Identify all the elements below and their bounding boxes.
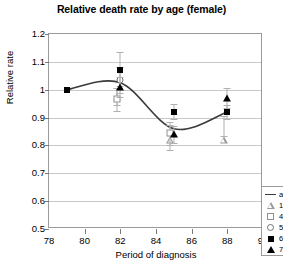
legend-marker-triangle-filled: [262, 246, 279, 253]
data-point-marker: [64, 87, 70, 93]
legend-point-swatch: [267, 213, 274, 220]
legend-item: 65-74: [262, 233, 283, 244]
series-all-line: [49, 34, 263, 229]
legend-item: 75+: [262, 244, 283, 255]
data-point-marker: [224, 109, 230, 115]
chart-title: Relative death rate by age (female): [0, 3, 283, 15]
x-axis-tick-label: 82: [108, 235, 132, 246]
chart-legend: all15-4445-5455-6465-7475+: [261, 186, 283, 256]
legend-marker-square-filled: [262, 236, 279, 242]
x-axis-tick-label: 86: [180, 235, 204, 246]
error-bar-cap: [113, 111, 120, 112]
legend-item: 15-44: [262, 200, 283, 211]
y-axis-tick-label: 1.1: [22, 57, 45, 66]
legend-point-swatch: [267, 246, 275, 253]
error-bar-cap: [117, 52, 124, 53]
error-bar-cap: [224, 88, 231, 89]
y-axis-tick-label: 0.6: [22, 196, 45, 205]
x-axis-tick-mark: [85, 229, 86, 234]
legend-item: 55-64: [262, 222, 283, 233]
error-bar-cap: [170, 143, 177, 144]
y-axis-label: Relative rate: [4, 33, 15, 123]
error-bar-cap: [170, 126, 177, 127]
data-point-marker: [171, 109, 177, 115]
error-bar-cap: [117, 97, 124, 98]
x-axis-tick-mark: [156, 229, 157, 234]
legend-marker-square-open: [262, 213, 279, 220]
error-bar-cap: [170, 119, 177, 120]
legend-item-label: 65-74: [279, 235, 283, 243]
data-point-marker: [116, 83, 124, 90]
legend-point-swatch: [267, 224, 274, 231]
error-bar-cap: [224, 108, 231, 109]
legend-item-label: 75+: [279, 246, 283, 254]
error-bar-cap: [167, 150, 174, 151]
y-axis-tick-label: 1: [22, 85, 45, 94]
x-axis-tick-label: 84: [144, 235, 168, 246]
x-axis-label: Period of diagnosis: [49, 249, 263, 260]
y-axis-tick-label: 0.8: [22, 140, 45, 149]
legend-point-swatch: [267, 202, 275, 209]
legend-line-swatch: [265, 194, 276, 196]
legend-item-label: 15-44: [279, 202, 283, 210]
x-axis-tick-mark: [227, 229, 228, 234]
x-axis-tick-label: 78: [37, 235, 61, 246]
error-bar-cap: [224, 119, 231, 120]
data-point-marker: [220, 136, 228, 143]
y-axis-tick-label: 0.5: [22, 224, 45, 233]
legend-marker-circle-open: [262, 224, 279, 231]
legend-marker-line: [262, 194, 279, 196]
legend-item-label: 45-54: [279, 213, 283, 221]
data-point-marker: [117, 67, 123, 73]
legend-point-swatch: [268, 236, 274, 242]
x-axis-tick-mark: [120, 229, 121, 234]
legend-item-label: 55-64: [279, 224, 283, 232]
y-axis-tick-label: 0.7: [22, 168, 45, 177]
x-axis-tick-label: 80: [73, 235, 97, 246]
x-axis-tick-mark: [192, 229, 193, 234]
legend-marker-triangle-open: [262, 202, 279, 209]
error-bar-cap: [167, 122, 174, 123]
legend-item: 45-54: [262, 211, 283, 222]
y-axis-tick-label: 1.2: [22, 29, 45, 38]
error-bar-cap: [170, 104, 177, 105]
legend-item: all: [262, 189, 283, 200]
x-axis-tick-label: 88: [215, 235, 239, 246]
data-point-marker: [223, 95, 231, 102]
y-axis-tick-label: 0.9: [22, 113, 45, 122]
error-bar-cap: [117, 77, 124, 78]
y-axis-tick-mark: [45, 229, 49, 230]
chart-figure: Relative death rate by age (female) 0.50…: [0, 0, 283, 273]
plot-area: 0.50.60.70.80.911.11.278808284868890 all…: [48, 33, 262, 228]
data-point-marker: [170, 131, 178, 138]
legend-item-label: all: [279, 191, 283, 199]
